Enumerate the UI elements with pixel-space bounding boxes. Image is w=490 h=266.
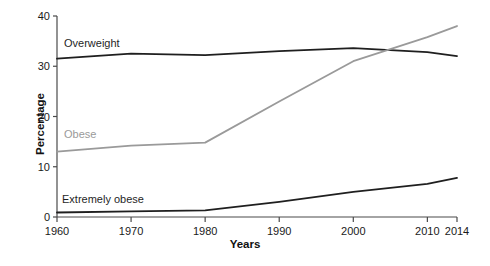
data-series-group	[57, 26, 457, 212]
y-tick-label: 40	[18, 10, 50, 22]
x-tick-label: 1980	[193, 225, 217, 237]
x-tick-label: 1970	[119, 225, 143, 237]
chart-container: 010203040 1960197019801990200020102014 P…	[0, 0, 490, 266]
series-label-overweight: Overweight	[64, 37, 120, 49]
x-tick-label: 2000	[341, 225, 365, 237]
x-tick-label: 2010	[415, 225, 439, 237]
x-axis-title: Years	[0, 238, 490, 250]
x-tick-label: 1960	[45, 225, 69, 237]
y-tick-label: 0	[18, 211, 50, 223]
series-label-obese: Obese	[64, 128, 96, 140]
series-label-extremely-obese: Extremely obese	[62, 193, 144, 205]
x-tick-label: 1990	[267, 225, 291, 237]
y-axis-title: Percentage	[34, 64, 46, 184]
series-line-overweight	[57, 48, 457, 59]
x-axis-ticks	[57, 217, 457, 222]
x-tick-label: 2014	[445, 225, 469, 237]
